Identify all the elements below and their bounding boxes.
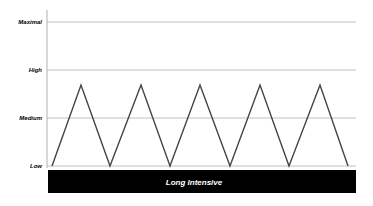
y-label-low: Low bbox=[30, 163, 42, 169]
y-label-high: High bbox=[29, 67, 42, 73]
session-type-label: Long Intensive bbox=[40, 177, 348, 186]
y-label-medium: Medium bbox=[19, 115, 42, 121]
intensity-line bbox=[52, 85, 348, 166]
intensity-chart: Maximal High Medium Low Long Intensive bbox=[0, 0, 373, 206]
session-type-bar: Long Intensive bbox=[48, 170, 356, 193]
y-label-maximal: Maximal bbox=[18, 19, 42, 25]
